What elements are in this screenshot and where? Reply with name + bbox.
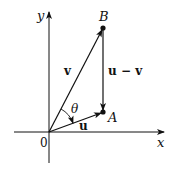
x-axis-label: x [157,136,164,149]
point-a [100,109,105,114]
point-a-label: A [108,111,117,124]
origin-label: 0 [40,137,48,149]
vector-u-label: u [79,120,88,132]
point-b-label: B [99,10,109,23]
vector-v-label: v [64,65,71,77]
vector-u-minus-v-label: u − v [108,65,142,77]
y-axis-label: y [37,9,44,22]
vector-diagram-canvas [0,0,174,172]
point-b [100,25,105,30]
angle-theta-label: θ [71,103,78,115]
vector-v [49,30,102,132]
